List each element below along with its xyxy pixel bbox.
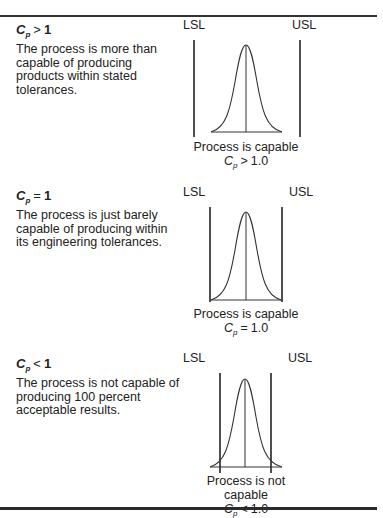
case-description: The process is more than capable of prod…	[16, 43, 181, 97]
normal-distribution-curve	[211, 212, 281, 300]
caption-text: Process is capable	[190, 140, 302, 154]
usl-label: USL	[289, 186, 313, 199]
comparison-operator: =	[30, 188, 44, 203]
case-description: The process is just barely capable of pr…	[16, 209, 181, 250]
caption-text: Process is not capable	[190, 474, 302, 502]
usl-label: USL	[292, 19, 316, 32]
cp-subscript: p	[233, 509, 237, 518]
normal-distribution-curve	[211, 45, 282, 132]
cp-subscript: p	[25, 196, 30, 205]
caption-formula: Cp>1.0	[190, 154, 302, 170]
diagram-caption: Process is capable Cp=1.0	[190, 307, 302, 337]
cp-symbol: C	[16, 188, 25, 203]
caption-formula: Cp<1.0	[190, 502, 302, 518]
threshold-value: 1	[44, 356, 51, 371]
diagram-caption: Process is not capable Cp<1.0	[190, 474, 302, 518]
case-title: Cp>1	[16, 23, 181, 37]
case-cp-greater-than-1: Cp>1 The process is more than capable of…	[16, 23, 181, 97]
lsl-label: LSL	[183, 186, 205, 199]
diagram-caption: Process is capable Cp>1.0	[190, 140, 302, 170]
case-title: Cp=1	[16, 189, 181, 203]
lsl-label: LSL	[183, 352, 205, 365]
threshold-value: 1.0	[251, 154, 268, 168]
threshold-value: 1	[44, 188, 51, 203]
cp-subscript: p	[233, 161, 237, 170]
bottom-border-rule	[0, 507, 377, 510]
cp-symbol: C	[16, 356, 25, 371]
lsl-label: LSL	[183, 19, 205, 32]
comparison-operator: >	[30, 22, 44, 37]
cp-subscript: p	[25, 30, 30, 39]
cp-symbol: C	[224, 154, 233, 168]
case-cp-less-than-1: Cp<1 The process is not capable of produ…	[16, 357, 181, 418]
comparison-operator: =	[237, 321, 250, 335]
cp-subscript: p	[233, 328, 237, 337]
caption-formula: Cp=1.0	[190, 321, 302, 337]
comparison-operator: <	[30, 356, 44, 371]
comparison-operator: >	[237, 154, 250, 168]
top-border-rule	[0, 15, 377, 17]
normal-distribution-curve	[210, 379, 282, 467]
cp-symbol: C	[224, 321, 233, 335]
usl-label: USL	[288, 352, 312, 365]
case-title: Cp<1	[16, 357, 181, 371]
case-description: The process is not capable of producing …	[16, 377, 181, 418]
caption-text: Process is capable	[190, 307, 302, 321]
cp-symbol: C	[16, 22, 25, 37]
case-cp-equal-1: Cp=1 The process is just barely capable …	[16, 189, 181, 250]
threshold-value: 1.0	[251, 321, 268, 335]
threshold-value: 1	[44, 22, 51, 37]
cp-subscript: p	[25, 364, 30, 373]
